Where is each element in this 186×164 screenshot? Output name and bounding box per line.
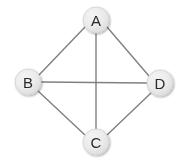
graph-node-b[interactable]: B <box>15 69 41 95</box>
graph-node-c[interactable]: C <box>83 129 109 155</box>
graph-edge-c-d <box>107 93 151 135</box>
graph-node-a[interactable]: A <box>83 7 109 33</box>
graph-edge-a-d <box>107 27 149 76</box>
graph-edge-a-b <box>39 27 85 75</box>
node-label-d: D <box>155 75 166 92</box>
graph-diagram-canvas: ABCD <box>0 0 186 164</box>
node-label-c: C <box>91 134 102 151</box>
edges-layer <box>38 27 151 135</box>
graph-diagram-svg: ABCD <box>0 0 186 164</box>
graph-node-d[interactable]: D <box>147 70 173 96</box>
graph-edge-b-c <box>38 91 85 135</box>
graph-edge-b-d <box>41 82 147 83</box>
node-label-a: A <box>91 12 101 29</box>
nodes-layer: ABCD <box>15 7 173 155</box>
node-label-b: B <box>23 74 33 91</box>
